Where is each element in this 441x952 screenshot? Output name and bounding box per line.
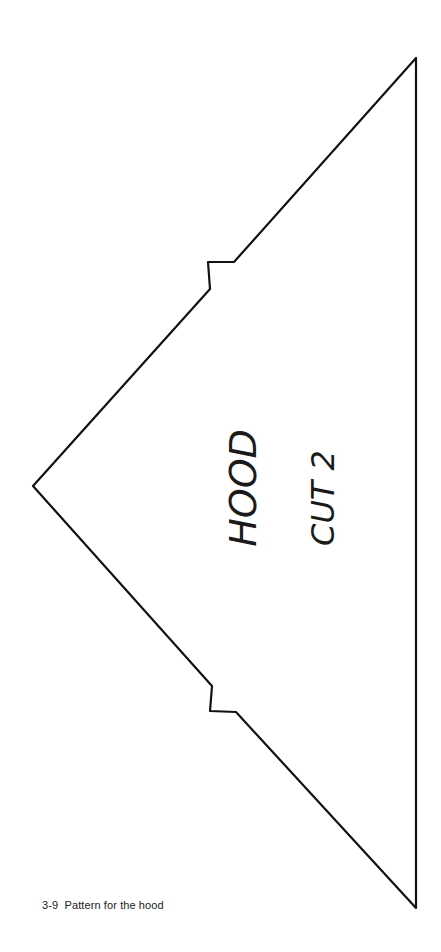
cut-instruction-label: CUT 2 — [304, 450, 342, 546]
hood-pattern-diagram: HOOD CUT 2 — [0, 0, 441, 952]
hood-label: HOOD — [221, 429, 265, 547]
figure-caption: 3-9 Pattern for the hood — [42, 899, 164, 911]
